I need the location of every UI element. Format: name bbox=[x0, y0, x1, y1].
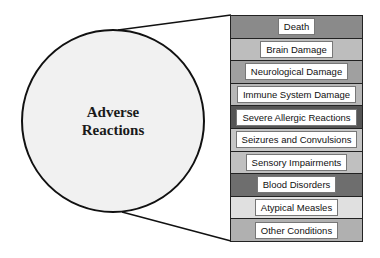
list-item-neurological-damage: Neurological Damage bbox=[231, 61, 362, 84]
row-label: Brain Damage bbox=[260, 41, 333, 58]
list-item-blood-disorders: Blood Disorders bbox=[231, 174, 362, 197]
list-item-immune-system-damage: Immune System Damage bbox=[231, 84, 362, 107]
list-item-severe-allergic-reactions: Severe Allergic Reactions bbox=[231, 106, 362, 129]
row-label: Neurological Damage bbox=[245, 63, 348, 80]
row-label: Blood Disorders bbox=[257, 176, 337, 193]
reactions-list: Death Brain Damage Neurological Damage I… bbox=[230, 15, 363, 242]
circle-label: Adverse Reactions bbox=[21, 29, 205, 213]
list-item-sensory-impairments: Sensory Impairments bbox=[231, 152, 362, 175]
list-item-other-conditions: Other Conditions bbox=[231, 219, 362, 241]
list-item-atypical-measles: Atypical Measles bbox=[231, 197, 362, 220]
list-item-brain-damage: Brain Damage bbox=[231, 39, 362, 62]
bottom-connector-line bbox=[122, 212, 231, 241]
row-label: Sensory Impairments bbox=[246, 154, 348, 171]
row-label: Severe Allergic Reactions bbox=[236, 109, 356, 126]
row-label: Other Conditions bbox=[255, 222, 338, 239]
list-item-death: Death bbox=[231, 16, 362, 39]
adverse-reactions-diagram: Adverse Reactions Death Brain Damage Neu… bbox=[0, 0, 380, 258]
row-label: Seizures and Convulsions bbox=[236, 131, 358, 148]
row-label: Immune System Damage bbox=[237, 86, 356, 103]
top-connector-line bbox=[118, 15, 231, 30]
row-label: Atypical Measles bbox=[255, 199, 338, 216]
list-item-seizures-and-convulsions: Seizures and Convulsions bbox=[231, 129, 362, 152]
row-label: Death bbox=[278, 18, 315, 35]
